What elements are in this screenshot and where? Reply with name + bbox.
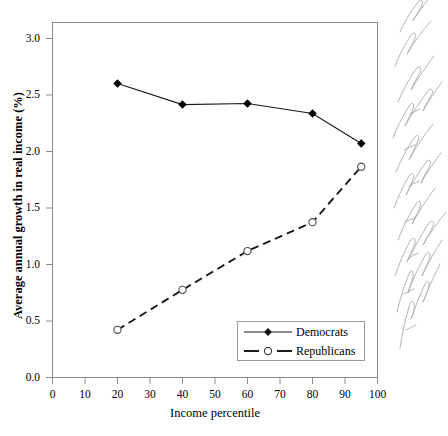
legend-glyph-dashed-open-circle	[242, 341, 294, 361]
legend-label-republicans: Republicans	[296, 344, 355, 359]
x-tick-label-0: 0	[38, 389, 68, 400]
data-point-democrats	[309, 110, 316, 117]
chart-legend: Democrats Republicans	[237, 321, 365, 361]
x-tick-label-40: 40	[168, 389, 198, 400]
x-tick-label-20: 20	[103, 389, 133, 400]
x-tick-label-80: 80	[298, 389, 328, 400]
x-tick-label-50: 50	[200, 389, 230, 400]
data-point-democrats	[179, 101, 186, 108]
legend-item-republicans: Republicans	[238, 341, 366, 361]
data-point-republicans	[244, 247, 251, 254]
x-tick-label-90: 90	[330, 389, 360, 400]
legend-item-democrats: Democrats	[238, 322, 366, 342]
x-axis-title: Income percentile	[52, 406, 378, 421]
series-democrats	[114, 80, 365, 147]
data-point-republicans	[358, 163, 365, 170]
x-tick-label-30: 30	[135, 389, 165, 400]
data-point-democrats	[358, 140, 365, 147]
legend-glyph-solid-filled-diamond	[242, 322, 294, 342]
plot-canvas	[0, 0, 448, 436]
x-axis-ticks	[53, 378, 378, 385]
y-axis-title: Average annual growth in real income (%)	[11, 36, 26, 376]
x-tick-label-100: 100	[363, 389, 393, 400]
data-point-democrats	[114, 80, 121, 87]
data-point-republicans	[114, 326, 121, 333]
y-axis-ticks	[46, 39, 53, 378]
x-tick-label-70: 70	[265, 389, 295, 400]
data-point-democrats	[244, 100, 251, 107]
series-republicans	[114, 163, 365, 333]
data-point-republicans	[309, 219, 316, 226]
chart-figure: 0.0 0.5 1.0 1.5 2.0 2.5 3.0 0 10 20 30 4…	[0, 0, 448, 436]
legend-label-democrats: Democrats	[296, 325, 348, 340]
data-point-republicans	[179, 286, 186, 293]
x-tick-label-60: 60	[233, 389, 263, 400]
x-tick-label-10: 10	[70, 389, 100, 400]
